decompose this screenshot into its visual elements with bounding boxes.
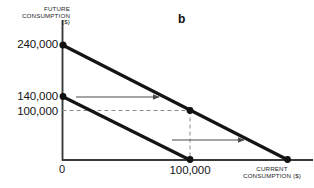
y-tick-label-100000: 100,000 <box>4 105 58 117</box>
budget-constraint-figure: b FUTURE CONSUMPTION ($) CURRENT CONSUMP… <box>0 0 314 188</box>
y-axis-title: FUTURE CONSUMPTION ($) <box>8 6 70 26</box>
y-tick-label-140000: 140,000 <box>4 90 58 102</box>
original-budget-line <box>60 93 194 163</box>
x-tick-label-100000: 100,000 <box>160 164 220 176</box>
shift-arrows <box>76 97 244 140</box>
reference-dashed-lines <box>63 111 191 161</box>
new-budget-line <box>59 41 291 163</box>
x-tick-label-0: 0 <box>52 164 72 176</box>
axis-lines <box>62 20 313 161</box>
panel-letter: b <box>178 13 185 26</box>
x-axis-title: CURRENT CONSUMPTION ($) <box>232 166 312 179</box>
y-tick-label-240000: 240,000 <box>4 38 58 50</box>
